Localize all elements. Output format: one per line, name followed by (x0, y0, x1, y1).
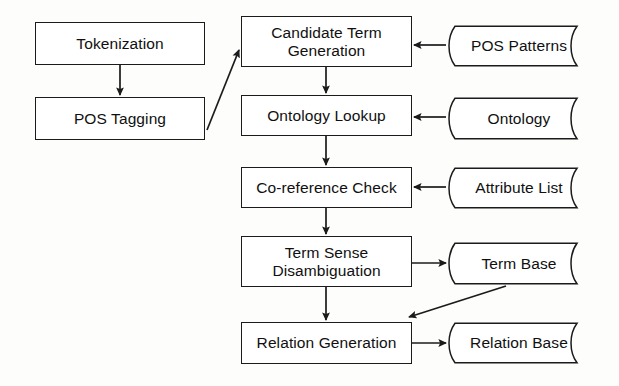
node-attribute-list-label: Attribute List (443, 179, 589, 197)
node-relation-base-label: Relation Base (443, 334, 589, 352)
node-term-sense-disambiguation[interactable]: Term Sense Disambiguation (241, 236, 412, 287)
flowchart-canvas: Tokenization POS Tagging Candidate Term … (0, 0, 619, 386)
node-ontology-lookup[interactable]: Ontology Lookup (241, 95, 412, 136)
node-attribute-list[interactable]: Attribute List (443, 167, 589, 209)
node-co-reference-check[interactable]: Co-reference Check (241, 167, 412, 208)
edge-term-base-to-relation-generation (409, 286, 506, 317)
node-relation-generation[interactable]: Relation Generation (241, 322, 412, 364)
node-pos-patterns-label: POS Patterns (443, 37, 589, 55)
node-pos-tagging[interactable]: POS Tagging (35, 97, 205, 140)
node-tokenization[interactable]: Tokenization (35, 22, 205, 65)
node-candidate-term-generation[interactable]: Candidate Term Generation (241, 16, 412, 67)
edge-pos-tagging-to-candidate (207, 50, 239, 130)
node-ontology-label: Ontology (443, 110, 589, 128)
node-term-base[interactable]: Term Base (443, 242, 589, 285)
node-pos-patterns[interactable]: POS Patterns (443, 25, 589, 67)
node-ontology[interactable]: Ontology (443, 97, 589, 140)
node-term-base-label: Term Base (443, 255, 589, 273)
node-relation-base[interactable]: Relation Base (443, 322, 589, 364)
